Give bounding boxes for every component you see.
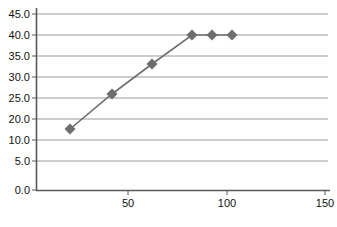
y-axis-ticks <box>32 14 36 190</box>
x-tick-label-150: 150 <box>305 198 337 209</box>
y-tick-label-40: 40.0 <box>0 30 30 41</box>
y-tick-label-10: 10.0 <box>0 135 30 146</box>
y-tick-label-5: 5.0 <box>0 156 30 167</box>
data-point-marker <box>227 30 238 41</box>
x-tick-label-100: 100 <box>207 198 247 209</box>
clipped-caption <box>0 214 337 227</box>
data-point-marker <box>187 30 198 41</box>
plot-area <box>0 0 337 227</box>
data-line-series-1 <box>70 35 232 129</box>
y-tick-label-35: 35.0 <box>0 51 30 62</box>
data-point-marker <box>207 30 218 41</box>
y-tick-label-30: 30.0 <box>0 72 30 83</box>
y-tick-label-0: 0.0 <box>0 185 30 196</box>
y-tick-label-45: 45.0 <box>0 9 30 20</box>
y-tick-label-20: 20.0 <box>0 114 30 125</box>
gridlines <box>36 14 328 161</box>
y-tick-label-25: 25.0 <box>0 93 30 104</box>
x-tick-label-50: 50 <box>108 198 148 209</box>
line-chart: 45.0 40.0 35.0 30.0 25.0 20.0 10.0 5.0 0… <box>0 0 337 227</box>
